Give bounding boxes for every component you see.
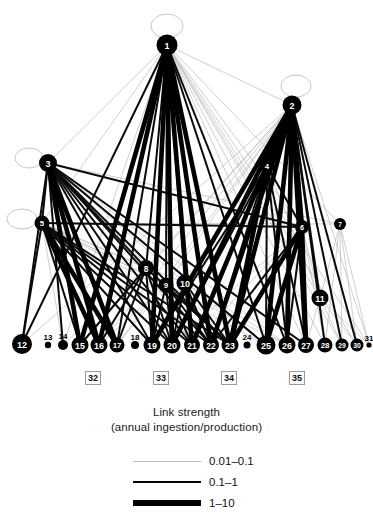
node-label: 2 bbox=[289, 101, 294, 111]
network-node-22[interactable]: 22 bbox=[203, 337, 219, 353]
legend-label-thick: 1–10 bbox=[209, 497, 235, 509]
legend-swatch-thick-line bbox=[133, 500, 201, 506]
network-node-2[interactable]: 2 bbox=[283, 96, 302, 115]
node-disc[interactable] bbox=[58, 340, 68, 350]
network-node-8[interactable]: 8 bbox=[138, 260, 154, 276]
node-label: 15 bbox=[75, 341, 85, 351]
network-node-12[interactable]: 12 bbox=[12, 334, 32, 354]
self-loop-edge bbox=[7, 209, 37, 229]
legend-subtitle: (annual ingestion/production) bbox=[0, 421, 373, 433]
node-label: 23 bbox=[225, 341, 235, 351]
network-node-18[interactable]: 18 bbox=[131, 333, 140, 350]
network-node-4[interactable]: 4 bbox=[260, 159, 275, 174]
legend-entry-thin: 0.01–0.1 bbox=[133, 455, 254, 467]
node-label: 9 bbox=[164, 281, 169, 290]
node-label: 22 bbox=[206, 341, 216, 351]
network-node-25[interactable]: 25 bbox=[257, 336, 276, 355]
node-label: 18 bbox=[131, 333, 140, 342]
network-node-3[interactable]: 3 bbox=[39, 154, 57, 172]
legend-label-thin: 0.01–0.1 bbox=[209, 455, 254, 467]
self-loop-edge bbox=[15, 148, 43, 168]
node-label: 25 bbox=[261, 341, 271, 351]
network-node-7[interactable]: 7 bbox=[334, 218, 346, 230]
legend-entry-thick: 1–10 bbox=[133, 497, 235, 509]
network-node-27[interactable]: 27 bbox=[298, 337, 314, 353]
node-label: 28 bbox=[321, 341, 330, 350]
network-node-23[interactable]: 23 bbox=[222, 337, 239, 354]
network-node-9[interactable]: 9 bbox=[159, 278, 174, 293]
node-label: 27 bbox=[301, 341, 311, 351]
network-node-21[interactable]: 21 bbox=[184, 337, 200, 353]
legend-entry-medium: 0.1–1 bbox=[133, 476, 238, 488]
node-label: 24 bbox=[243, 333, 252, 342]
node-label: 5 bbox=[40, 219, 45, 228]
node-label: 29 bbox=[338, 342, 346, 349]
group-box-label-32: 32 bbox=[85, 371, 101, 385]
network-node-10[interactable]: 10 bbox=[177, 275, 194, 292]
node-disc[interactable] bbox=[45, 342, 51, 348]
network-node-1[interactable]: 1 bbox=[157, 35, 178, 56]
node-label: 20 bbox=[167, 341, 177, 351]
network-node-13[interactable]: 13 bbox=[44, 333, 53, 348]
network-node-11[interactable]: 11 bbox=[312, 290, 329, 307]
legend-label-medium: 0.1–1 bbox=[209, 476, 238, 488]
group-box-label-33: 33 bbox=[153, 371, 169, 385]
node-label: 30 bbox=[353, 342, 361, 349]
network-node-14[interactable]: 14 bbox=[58, 332, 68, 351]
network-canvas: 1234567891011121314151617181920212223242… bbox=[0, 0, 373, 513]
self-loop-edge bbox=[151, 14, 183, 38]
node-label: 12 bbox=[17, 340, 27, 350]
node-label: 1 bbox=[164, 41, 169, 51]
node-disc[interactable] bbox=[366, 342, 371, 347]
node-label: 31 bbox=[365, 334, 373, 343]
network-node-6[interactable]: 6 bbox=[295, 220, 309, 234]
network-node-19[interactable]: 19 bbox=[144, 337, 161, 354]
node-label: 3 bbox=[45, 159, 50, 169]
group-box-label-35: 35 bbox=[289, 371, 305, 385]
node-label: 4 bbox=[265, 162, 270, 171]
network-node-5[interactable]: 5 bbox=[35, 216, 50, 231]
legend-swatch-thin-line bbox=[133, 461, 201, 462]
node-label: 21 bbox=[187, 341, 197, 351]
network-node-30[interactable]: 30 bbox=[351, 339, 364, 352]
node-label: 14 bbox=[59, 332, 68, 341]
legend-swatch-medium-line bbox=[133, 481, 201, 483]
legend-title: Link strength bbox=[0, 406, 373, 418]
node-label: 13 bbox=[44, 333, 53, 342]
network-figure: 1234567891011121314151617181920212223242… bbox=[0, 0, 373, 513]
network-node-20[interactable]: 20 bbox=[164, 337, 181, 354]
node-label: 10 bbox=[180, 279, 190, 289]
network-node-17[interactable]: 17 bbox=[110, 338, 125, 353]
network-node-26[interactable]: 26 bbox=[279, 337, 296, 354]
node-label: 7 bbox=[338, 221, 342, 228]
network-node-29[interactable]: 29 bbox=[336, 339, 349, 352]
network-link bbox=[22, 223, 42, 344]
node-disc[interactable] bbox=[244, 342, 251, 349]
node-label: 19 bbox=[147, 341, 157, 351]
node-label: 17 bbox=[113, 341, 122, 350]
node-label: 6 bbox=[300, 223, 304, 232]
self-loop-edge bbox=[281, 75, 311, 97]
node-label: 16 bbox=[94, 341, 104, 351]
group-box-label-34: 34 bbox=[221, 371, 237, 385]
network-node-31[interactable]: 31 bbox=[365, 334, 373, 348]
node-label: 8 bbox=[144, 264, 149, 274]
node-disc[interactable] bbox=[131, 341, 139, 349]
network-node-16[interactable]: 16 bbox=[91, 337, 108, 354]
node-label: 26 bbox=[282, 341, 292, 351]
network-node-24[interactable]: 24 bbox=[243, 333, 252, 349]
network-node-15[interactable]: 15 bbox=[72, 337, 89, 354]
network-node-28[interactable]: 28 bbox=[318, 338, 333, 353]
node-label: 11 bbox=[315, 294, 324, 304]
